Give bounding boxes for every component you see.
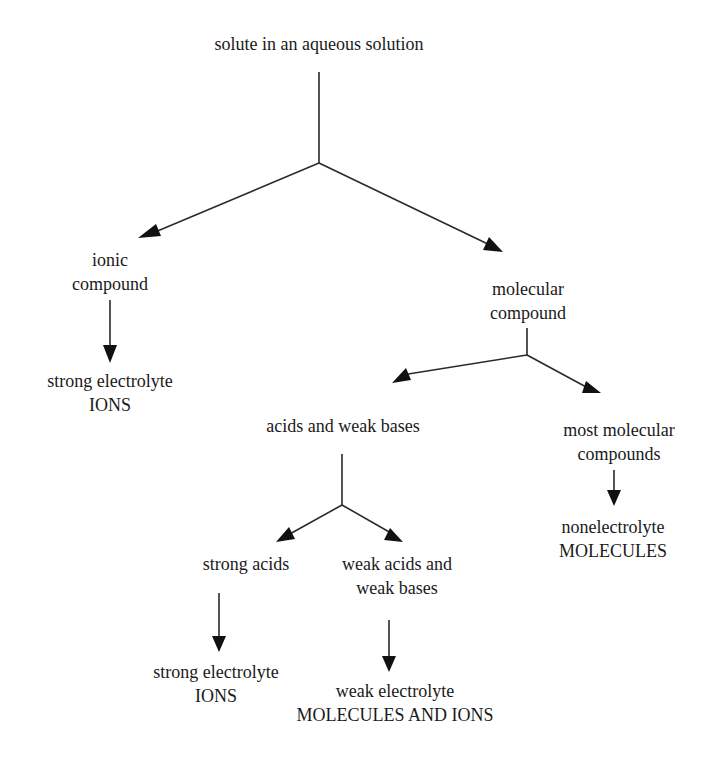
- node-ionic-result-line1: strong electrolyte: [47, 369, 172, 393]
- node-strong-acids-result-line1: strong electrolyte: [153, 660, 278, 684]
- node-nonelectrolyte-line1: nonelectrolyte: [559, 515, 667, 539]
- arrowhead-acids: [392, 368, 411, 383]
- arrowhead-nonelectrolyte: [607, 490, 621, 506]
- node-ionic-line2: compound: [72, 272, 148, 296]
- arrowhead-weak-result: [382, 656, 396, 672]
- node-weak-acids-and-weak-bases: weak acids and weak bases: [342, 552, 452, 600]
- arrowhead-molecular: [483, 237, 503, 252]
- node-molecular-line2: compound: [490, 301, 566, 325]
- node-acids-and-weak-bases: acids and weak bases: [266, 414, 419, 438]
- node-strong-acids-line1: strong acids: [203, 552, 289, 576]
- arrowhead-ionic: [138, 224, 161, 238]
- node-weak-acids-line2: weak bases: [342, 576, 452, 600]
- node-strong-acids: strong acids: [203, 552, 289, 576]
- node-ionic-compound: ionic compound: [72, 248, 148, 296]
- node-strong-acids-result: strong electrolyte IONS: [153, 660, 278, 708]
- node-most-molecular-line2: compounds: [563, 442, 674, 466]
- node-weak-result-line1: weak electrolyte: [296, 679, 493, 703]
- arrow-to-weak-acids: [342, 505, 391, 533]
- node-root-line1: solute in an aqueous solution: [215, 32, 424, 56]
- node-acids-line1: acids and weak bases: [266, 414, 419, 438]
- arrowhead-ionic-result: [103, 345, 117, 363]
- arrow-to-most-molecular: [527, 355, 588, 388]
- node-weak-result-line2: MOLECULES AND IONS: [296, 703, 493, 727]
- arrowhead-most-molecular: [582, 381, 601, 393]
- arrow-to-acids: [402, 355, 527, 375]
- node-molecular-compound: molecular compound: [490, 277, 566, 325]
- arrow-to-ionic: [148, 163, 319, 235]
- node-ionic-line1: ionic: [72, 248, 148, 272]
- node-weak-electrolyte-result: weak electrolyte MOLECULES AND IONS: [296, 679, 493, 727]
- node-nonelectrolyte-line2: MOLECULES: [559, 539, 667, 563]
- arrow-to-strong-acids: [288, 505, 342, 535]
- node-molecular-line1: molecular: [490, 277, 566, 301]
- node-strong-acids-result-line2: IONS: [153, 684, 278, 708]
- node-most-molecular-compounds: most molecular compounds: [563, 418, 674, 466]
- node-ionic-result-line2: IONS: [47, 393, 172, 417]
- node-nonelectrolyte-result: nonelectrolyte MOLECULES: [559, 515, 667, 563]
- arrowhead-strong-acids-result: [212, 636, 226, 652]
- node-weak-acids-line1: weak acids and: [342, 552, 452, 576]
- node-most-molecular-line1: most molecular: [563, 418, 674, 442]
- node-ionic-result: strong electrolyte IONS: [47, 369, 172, 417]
- arrowhead-strong-acids: [276, 527, 295, 542]
- arrow-to-molecular: [319, 163, 492, 246]
- node-root: solute in an aqueous solution: [215, 32, 424, 56]
